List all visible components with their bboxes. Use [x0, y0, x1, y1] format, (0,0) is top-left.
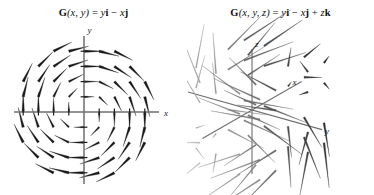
- vector-arrow-2d: [115, 157, 130, 172]
- vector-arrow-3d: [323, 56, 329, 63]
- vector-arrow-3d: [240, 72, 276, 91]
- vector-arrow-2d: [40, 129, 54, 143]
- vector-arrow-3d: [299, 132, 309, 165]
- panel-3d-vector-field: G(x, y, z) = yi − xj + zk zyx: [187, 0, 374, 195]
- vector-arrow-3d: [195, 24, 204, 68]
- vector-arrow-3d: [300, 152, 309, 195]
- vector-arrow-3d: [244, 10, 291, 41]
- vector-arrow-3d: [304, 76, 322, 78]
- vector-arrows-3d: [187, 10, 329, 195]
- vector-arrow-2d: [35, 164, 54, 174]
- vector-arrow-2d: [53, 83, 61, 98]
- vector-arrow-2d: [107, 127, 115, 142]
- vector-arrow-3d: [264, 53, 306, 67]
- vector-arrow-2d: [114, 50, 133, 60]
- vector-arrow-3d: [287, 82, 291, 87]
- vector-arrow-2d: [91, 127, 100, 136]
- vector-arrow-2d: [55, 135, 70, 143]
- plot-3d-canvas: zyx: [187, 0, 374, 195]
- vector-arrow-2d: [53, 68, 67, 82]
- vector-arrow-2d: [129, 81, 141, 99]
- plot-2d-canvas: xy: [0, 0, 187, 195]
- vector-arrow-3d: [299, 91, 308, 95]
- vector-arrow-2d: [99, 81, 114, 89]
- vector-arrow-3d: [196, 148, 205, 159]
- vector-arrow-3d: [287, 146, 291, 187]
- vector-arrow-2d: [97, 157, 115, 169]
- vector-arrow-3d: [196, 125, 205, 129]
- vector-arrow-2d: [37, 52, 52, 67]
- y-axis-label-3d: y: [324, 126, 329, 136]
- vector-arrow-3d: [198, 153, 240, 167]
- vector-arrow-3d: [323, 82, 329, 89]
- x-axis-label-3d: x: [292, 77, 297, 87]
- vector-arrow-2d: [129, 65, 144, 80]
- vector-arrow-3d: [212, 133, 216, 138]
- vector-arrow-3d: [213, 33, 217, 74]
- vector-arrow-2d: [53, 55, 71, 67]
- vector-arrow-3d: [300, 61, 309, 73]
- vector-arrow-3d: [202, 65, 241, 94]
- vector-arrow-3d: [198, 98, 240, 115]
- z-axis-label-3d: z: [254, 39, 259, 49]
- panel-2d-vector-field: G(x, y) = yi − xj xy: [0, 0, 187, 195]
- plot-2d-group: xy: [14, 25, 168, 184]
- figure-root: G(x, y) = yi − xj xy G(x, y, z) = yi − x…: [0, 0, 374, 195]
- vector-arrow-3d: [240, 170, 276, 195]
- vector-arrow-3d: [187, 142, 200, 143]
- vector-arrow-2d: [136, 142, 146, 161]
- vector-arrow-2d: [27, 125, 39, 143]
- x-axis-label-2d: x: [163, 108, 168, 118]
- vector-arrow-2d: [114, 81, 128, 95]
- vector-arrow-2d: [22, 63, 32, 82]
- y-axis-label-2d: y: [87, 25, 92, 35]
- vector-arrow-2d: [99, 96, 108, 105]
- vector-arrow-2d: [60, 119, 69, 128]
- vector-arrow-2d: [101, 142, 115, 156]
- vector-arrow-3d: [187, 162, 200, 176]
- vector-arrow-3d: [303, 44, 320, 58]
- vector-arrow-3d: [264, 125, 303, 154]
- plot-3d-group: zyx: [187, 10, 329, 195]
- vector-arrow-3d: [202, 173, 241, 195]
- vector-arrow-2d: [24, 143, 39, 158]
- vector-arrow-2d: [68, 88, 77, 97]
- vector-arrow-3d: [213, 154, 217, 173]
